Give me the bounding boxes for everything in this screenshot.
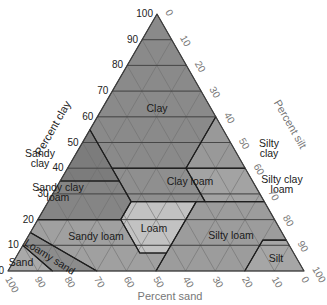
sand-tick: 10	[270, 275, 285, 291]
silt-tick: 90	[296, 239, 311, 255]
sand-tick: 40	[181, 275, 196, 291]
label-clay-loam: Clay loam	[167, 175, 214, 187]
label-sand: Sand	[9, 256, 34, 268]
clay-tick: 50	[67, 137, 79, 148]
clay-tick: 40	[52, 162, 64, 173]
clay-tick: 20	[23, 214, 35, 225]
clay-tick: 10	[8, 239, 20, 250]
sand-tick: 80	[62, 275, 77, 291]
sand-tick: 60	[122, 275, 137, 291]
sand-tick: 90	[33, 275, 48, 291]
silt-tick: 20	[193, 59, 208, 75]
silt-tick: 50	[237, 136, 252, 152]
sand-tick: 100	[3, 275, 21, 295]
label-loam: Loam	[141, 222, 168, 234]
label-silt: Silt	[269, 252, 284, 264]
clay-tick: 30	[38, 188, 50, 199]
silt-tick: 40	[222, 110, 237, 126]
sand-tick: 70	[92, 275, 107, 291]
silt-tick: 80	[281, 213, 296, 229]
silt-tick: 30	[207, 85, 222, 101]
silt-tick: 0	[163, 8, 176, 19]
sand-tick: 0	[299, 275, 312, 286]
sand-tick: 30	[210, 275, 225, 291]
silt-tick: 100	[310, 265, 327, 285]
label-silty-loam: Silty loam	[208, 229, 254, 241]
label-clay: Clay	[146, 102, 168, 114]
silt-tick: 10	[178, 33, 193, 49]
sand-tick: 20	[240, 275, 255, 291]
label-sandy-loam: Sandy loam	[68, 230, 124, 242]
clay-tick: 80	[112, 59, 124, 70]
soil-texture-triangle: ClaySandyclaySiltyclayClay loamSandy cla…	[0, 0, 327, 305]
clay-tick: 90	[127, 34, 139, 45]
sand-axis-title: Percent sand	[138, 290, 203, 302]
clay-tick: 60	[82, 111, 94, 122]
sand-tick: 50	[151, 275, 166, 291]
clay-tick: 0	[0, 265, 4, 276]
clay-tick: 70	[97, 85, 109, 96]
label-silty-clay: Siltyclay	[259, 137, 280, 159]
clay-tick: 100	[136, 8, 153, 19]
